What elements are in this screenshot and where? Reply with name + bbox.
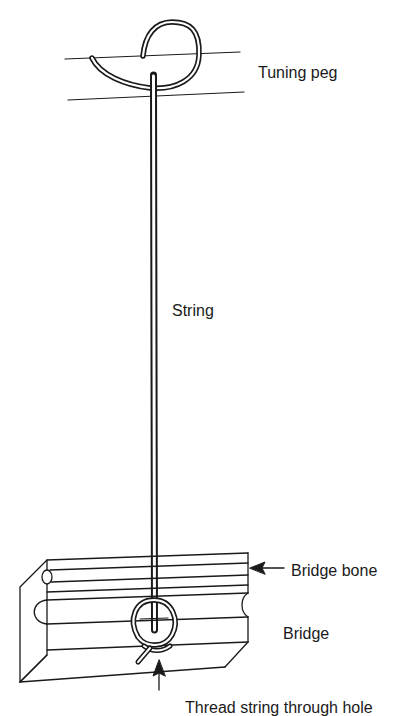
- bridge-bone-label: Bridge bone: [291, 563, 377, 579]
- string-label: String: [172, 303, 214, 319]
- bridge-label: Bridge: [283, 626, 329, 642]
- thread-note-label: Thread string through hole: [185, 700, 373, 716]
- tuning-peg-label: Tuning peg: [258, 65, 337, 81]
- knot-arrow: [153, 660, 165, 690]
- string-line: [154, 75, 155, 630]
- peg-loop: [92, 22, 199, 88]
- bridge-bone-arrow: [250, 562, 284, 574]
